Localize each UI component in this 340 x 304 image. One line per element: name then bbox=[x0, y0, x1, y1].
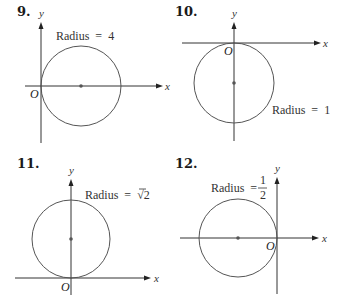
y-axis-label: y bbox=[231, 7, 237, 19]
circle-diagrams: 9. y x O Radius = 4 10. y x O Radius = 1 bbox=[0, 0, 340, 304]
radius-annotation: Radius = 1 bbox=[272, 103, 330, 117]
center-point bbox=[232, 81, 236, 85]
y-axis-label: y bbox=[68, 164, 74, 176]
fraction-denominator: 2 bbox=[260, 188, 266, 202]
x-axis-label: x bbox=[321, 232, 327, 244]
y-axis-label: y bbox=[38, 7, 44, 19]
y-arrow-icon bbox=[275, 177, 280, 184]
x-arrow-icon bbox=[314, 41, 321, 46]
x-axis-label: x bbox=[164, 80, 170, 92]
problem-number: 12. bbox=[175, 156, 198, 171]
panel-12: 12. y x O Radius = 1 2 bbox=[175, 156, 327, 294]
y-axis-label: y bbox=[274, 162, 280, 174]
problem-number: 11. bbox=[17, 156, 40, 171]
origin-label: O bbox=[30, 87, 39, 101]
origin-label: O bbox=[224, 44, 233, 58]
radius-annotation: Radius = 4 bbox=[56, 29, 114, 43]
radius-annotation: Radius = bbox=[211, 181, 257, 195]
problem-number: 9. bbox=[17, 4, 31, 19]
origin-label: O bbox=[61, 280, 70, 294]
panel-11: 11. y x O Radius = √2 bbox=[15, 156, 159, 295]
center-point bbox=[236, 236, 240, 240]
radius-annotation: Radius = √2 bbox=[85, 188, 150, 202]
x-axis-label: x bbox=[153, 272, 159, 284]
y-arrow-icon bbox=[69, 179, 74, 186]
x-arrow-icon bbox=[312, 236, 319, 241]
panel-10: 10. y x O Radius = 1 bbox=[175, 4, 330, 141]
x-arrow-icon bbox=[156, 84, 163, 89]
x-axis-label: x bbox=[322, 37, 328, 49]
fraction-numerator: 1 bbox=[260, 173, 266, 187]
problem-number: 10. bbox=[175, 4, 198, 19]
y-arrow-icon bbox=[232, 22, 237, 29]
panel-9: 9. y x O Radius = 4 bbox=[17, 4, 170, 143]
origin-label: O bbox=[266, 239, 275, 253]
center-point bbox=[69, 237, 73, 241]
x-arrow-icon bbox=[144, 276, 151, 281]
y-arrow-icon bbox=[39, 22, 44, 29]
center-point bbox=[79, 84, 83, 88]
